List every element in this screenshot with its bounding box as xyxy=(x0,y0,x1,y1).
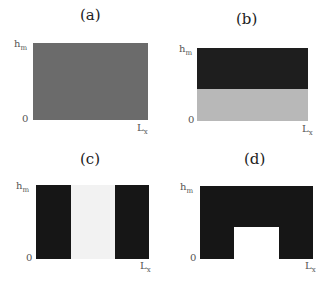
panel-c-right-dark-region xyxy=(115,185,149,259)
panel-b-x-max-label: Lx xyxy=(302,123,313,137)
panel-c-center-light-region xyxy=(71,185,115,259)
panel-b-y-max-label: hm xyxy=(179,43,192,57)
panel-d-x-max-label: Lx xyxy=(305,260,316,274)
panel-a-y-zero-label: 0 xyxy=(22,113,28,124)
panel-a-region xyxy=(33,43,148,120)
panel-c-x-max-label: Lx xyxy=(140,260,151,274)
panel-c-y-zero-label: 0 xyxy=(26,252,32,263)
panel-a-x-max-label: Lx xyxy=(137,122,148,136)
panel-d-y-zero-label: 0 xyxy=(190,252,196,263)
panel-a-y-max-label: hm xyxy=(14,38,27,52)
panel-b-y-zero-label: 0 xyxy=(188,114,194,125)
panel-d-y-max-label: hm xyxy=(180,181,193,195)
panel-c-left-dark-region xyxy=(36,185,71,259)
panel-d-white-notch xyxy=(234,227,279,259)
panel-b-upper-region xyxy=(197,48,308,89)
panel-b-title: (b) xyxy=(236,10,257,28)
panel-d-title: (d) xyxy=(244,150,265,168)
panel-c-title: (c) xyxy=(80,150,100,168)
panel-c-y-max-label: hm xyxy=(16,180,29,194)
panel-a-title: (a) xyxy=(80,6,101,24)
panel-b-lower-region xyxy=(197,89,308,121)
